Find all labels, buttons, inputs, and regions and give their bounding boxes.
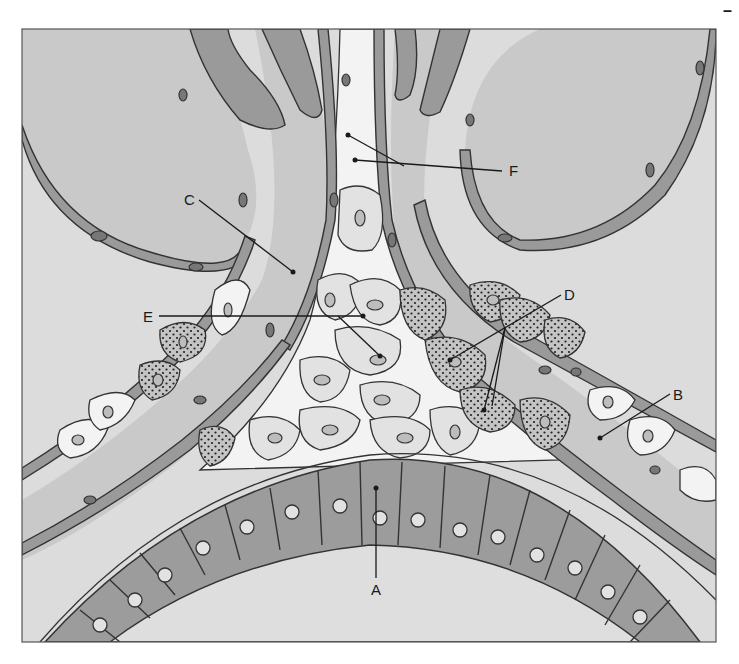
svg-text:F: F — [509, 162, 518, 179]
svg-text:E: E — [143, 308, 153, 325]
drawing-area — [22, 29, 716, 642]
svg-text:D: D — [564, 286, 575, 303]
svg-text:C: C — [184, 191, 195, 208]
corner-mark: – — [723, 2, 732, 19]
svg-text:B: B — [673, 386, 683, 403]
histology-diagram: – — [0, 0, 739, 664]
svg-text:A: A — [371, 581, 381, 598]
